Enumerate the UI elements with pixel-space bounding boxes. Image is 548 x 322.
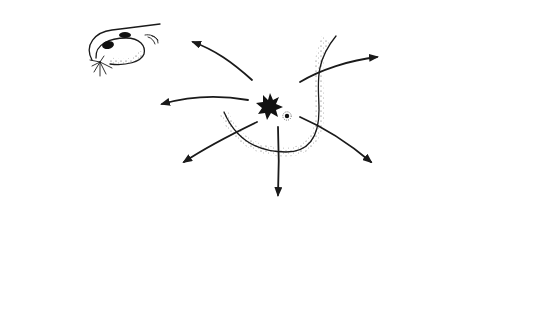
- ovary-organ: [89, 24, 160, 76]
- metastasis-diagram: Sites of distant metastasis from primary…: [0, 0, 548, 322]
- arrow-to-contralateral-breast: [300, 57, 377, 82]
- arrow-to-liver: [162, 97, 248, 104]
- arrow-to-pelvis: [278, 127, 279, 195]
- primary-breast: [224, 36, 336, 152]
- metastasis-arrows: [162, 42, 377, 195]
- primary-tumor-icon: [256, 93, 283, 120]
- nipple-icon: [285, 114, 289, 118]
- diagram-canvas: [0, 0, 548, 322]
- arrow-to-ovary: [193, 42, 252, 80]
